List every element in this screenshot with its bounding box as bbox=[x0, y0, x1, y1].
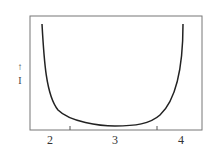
x-tick-label: 2 bbox=[47, 133, 53, 147]
data-curve bbox=[42, 24, 183, 126]
plot-frame bbox=[30, 16, 202, 130]
chart: 2 3 4 ↑ I bbox=[0, 0, 213, 151]
y-axis-label: I bbox=[18, 75, 21, 86]
x-tick-label: 3 bbox=[112, 133, 118, 147]
x-tick-label: 4 bbox=[178, 133, 184, 147]
y-axis-arrow-icon: ↑ bbox=[18, 61, 23, 72]
